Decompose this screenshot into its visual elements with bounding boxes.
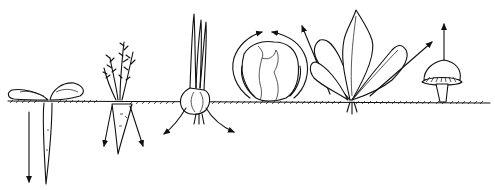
mushroom <box>422 24 462 102</box>
carrot <box>103 42 143 154</box>
leafy-plant <box>302 10 432 114</box>
ground-line <box>8 100 490 104</box>
root-seedling <box>8 83 83 184</box>
arrow-down-left-icon <box>104 106 112 146</box>
cabbage <box>233 32 308 101</box>
arrow-down-right-icon <box>130 106 143 146</box>
onion <box>164 14 234 134</box>
vegetable-growth-illustration <box>0 0 495 190</box>
